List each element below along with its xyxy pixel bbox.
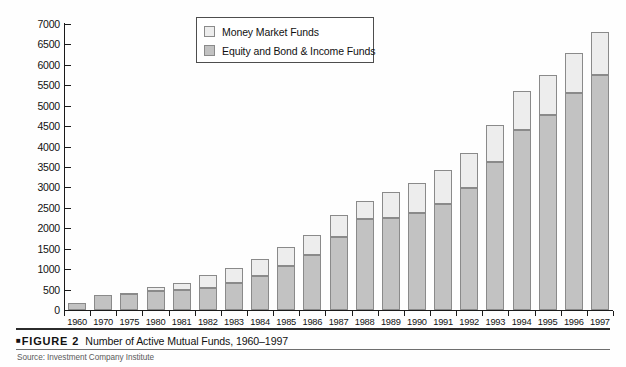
y-axis-tick-label: 3500: [8, 162, 60, 172]
caption-figure-word: FIGURE: [22, 335, 68, 347]
y-axis-tick: [65, 269, 71, 270]
y-axis-tick-label: 4000: [8, 142, 60, 152]
y-axis-tick-label: 6000: [8, 60, 60, 70]
x-axis-tick: [613, 311, 614, 316]
bar-segment-equity-bond: [199, 288, 217, 310]
bar-1983: [225, 268, 243, 310]
x-axis-tick: [325, 311, 326, 316]
y-axis-tick: [65, 24, 71, 25]
bar-1981: [173, 283, 191, 310]
chart-legend: Money Market Funds Equity and Bond & Inc…: [196, 17, 374, 63]
x-axis-tick-label-1982: 1982: [195, 317, 221, 327]
y-axis-tick-label: 6500: [8, 39, 60, 49]
y-axis-tick-label: 500: [8, 285, 60, 295]
figure-container: 7000650060005500500045004000350030002500…: [0, 0, 626, 367]
x-axis-tick-label-1993: 1993: [482, 317, 508, 327]
y-axis-tick-label-text: 4000: [18, 142, 60, 152]
bar-segment-equity-bond: [251, 276, 269, 310]
y-axis-tick: [65, 44, 71, 45]
x-axis-tick-label-1985: 1985: [273, 317, 299, 327]
bar-1980: [147, 287, 165, 310]
bar-segment-equity-bond: [460, 188, 478, 310]
x-axis-tick: [221, 311, 222, 316]
bar-segment-equity-bond: [303, 255, 321, 310]
bar-segment-money-market: [225, 268, 243, 283]
bar-segment-money-market: [303, 235, 321, 255]
caption-title-text: Number of Active Mutual Funds, 1960–1997: [85, 335, 288, 347]
y-axis-tick: [65, 310, 71, 311]
x-axis-tick-label-1996: 1996: [561, 317, 587, 327]
y-axis-tick: [65, 290, 71, 291]
bar-segment-equity-bond: [147, 291, 165, 310]
y-axis-tick: [65, 126, 71, 127]
x-axis-tick: [169, 311, 170, 316]
x-axis-tick: [273, 311, 274, 316]
x-axis-tick-label-1981: 1981: [169, 317, 195, 327]
x-axis-tick: [482, 311, 483, 316]
y-axis-tick-label-text: 0: [18, 305, 60, 315]
x-axis-tick-label-1988: 1988: [352, 317, 378, 327]
legend-swatch-money-market: [204, 26, 215, 37]
bar-1996: [565, 53, 583, 310]
x-axis-tick: [535, 311, 536, 316]
y-axis-tick: [65, 208, 71, 209]
bar-segment-equity-bond: [225, 283, 243, 310]
bar-segment-equity-bond: [539, 115, 557, 310]
y-axis-tick: [65, 228, 71, 229]
y-axis-tick-label-text: 500: [18, 285, 60, 295]
x-axis-tick-label-1986: 1986: [299, 317, 325, 327]
bar-segment-equity-bond: [434, 204, 452, 310]
y-axis-tick-label-text: 5500: [18, 80, 60, 90]
x-axis-tick-label-1990: 1990: [404, 317, 430, 327]
source-note: Source: Investment Company Institute: [17, 353, 154, 362]
bar-1987: [330, 215, 348, 310]
y-axis-tick-label: 3000: [8, 182, 60, 192]
x-axis-tick: [116, 311, 117, 316]
bar-1960: [68, 303, 86, 310]
bar-1991: [434, 170, 452, 310]
bar-1984: [251, 259, 269, 310]
bar-1993: [486, 125, 504, 310]
x-axis-tick: [378, 311, 379, 316]
y-axis-tick: [65, 85, 71, 86]
bar-1982: [199, 275, 217, 310]
bar-segment-money-market: [199, 275, 217, 288]
caption-square-icon: ■: [16, 336, 21, 346]
y-axis-tick-label: 2500: [8, 203, 60, 213]
x-axis-tick-origin: [64, 311, 65, 316]
bar-1994: [513, 91, 531, 310]
legend-item-equity-bond: Equity and Bond & Income Funds: [204, 41, 367, 60]
bar-segment-money-market: [330, 215, 348, 237]
bar-1975: [120, 293, 138, 310]
caption-figure-number: 2: [72, 335, 78, 347]
bar-segment-money-market: [486, 125, 504, 163]
bar-segment-money-market: [513, 91, 531, 130]
bar-segment-money-market: [460, 153, 478, 188]
y-axis-tick-label-text: 3500: [18, 162, 60, 172]
x-axis-tick-label-1984: 1984: [247, 317, 273, 327]
y-axis-tick-label-text: 3000: [18, 182, 60, 192]
bar-1970: [94, 295, 112, 310]
figure-caption: ■ FIGURE 2 Number of Active Mutual Funds…: [16, 333, 610, 348]
legend-label-equity-bond: Equity and Bond & Income Funds: [222, 45, 375, 57]
bar-segment-equity-bond: [356, 219, 374, 310]
y-axis-tick-label: 5000: [8, 101, 60, 111]
bar-segment-money-market: [434, 170, 452, 204]
x-axis-tick-label-1991: 1991: [430, 317, 456, 327]
bar-1990: [408, 183, 426, 310]
y-axis-tick-label: 0: [8, 305, 60, 315]
legend-swatch-equity-bond: [204, 45, 215, 56]
bar-segment-equity-bond: [94, 295, 112, 310]
bar-segment-money-market: [277, 247, 295, 266]
bar-segment-equity-bond: [120, 294, 138, 310]
x-axis-tick-label-1960: 1960: [64, 317, 90, 327]
y-axis-tick-label-text: 5000: [18, 101, 60, 111]
bar-segment-equity-bond: [382, 218, 400, 310]
y-axis-tick: [65, 147, 71, 148]
bar-segment-equity-bond: [513, 130, 531, 310]
caption-bottom-divider: [16, 349, 610, 350]
y-axis-tick-label-text: 1500: [18, 244, 60, 254]
bar-segment-money-market: [251, 259, 269, 276]
x-axis-tick-label-1983: 1983: [221, 317, 247, 327]
x-axis-tick: [561, 311, 562, 316]
